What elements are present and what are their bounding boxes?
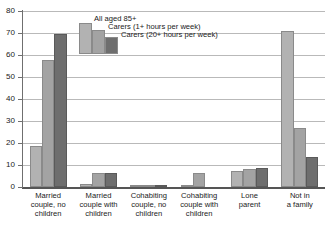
legend-label: Carers (20+ hours per week): [121, 30, 218, 39]
bar: [306, 157, 318, 187]
bar: [155, 185, 167, 187]
bar-group: [30, 11, 67, 187]
y-axis-tick-label: 20: [0, 139, 15, 147]
y-axis-tick-label: 40: [0, 95, 15, 103]
x-axis-category-label: Not in a family: [271, 191, 329, 209]
bar: [256, 168, 268, 187]
bar: [42, 60, 54, 187]
y-axis-tick-label: 60: [0, 51, 15, 59]
x-axis-line: [22, 187, 325, 189]
bar: [193, 173, 205, 187]
bar: [281, 31, 293, 187]
bar: [143, 185, 155, 187]
bar: [181, 185, 193, 187]
y-axis-tick-label: 50: [0, 73, 15, 81]
bar: [130, 185, 142, 187]
legend-swatch: [105, 37, 118, 54]
bar-group: [281, 11, 318, 187]
y-axis-tick-label: 70: [0, 29, 15, 37]
y-axis-tick: [18, 187, 23, 188]
chart-legend: All aged 85+Carers (1+ hours per week)Ca…: [79, 14, 239, 64]
y-axis-tick-label: 80: [0, 7, 15, 15]
bar: [92, 173, 104, 187]
bar: [105, 173, 117, 187]
legend-swatch: [79, 23, 92, 54]
bar: [231, 171, 243, 187]
bar: [80, 184, 92, 187]
y-axis-tick-label: 10: [0, 161, 15, 169]
bar: [54, 34, 66, 187]
bar: [294, 128, 306, 187]
legend-swatch: [92, 30, 105, 54]
y-axis-tick-label: 30: [0, 117, 15, 125]
bar: [30, 146, 42, 187]
bar: [243, 169, 255, 187]
y-axis-tick-label: 0: [0, 183, 15, 191]
bar-chart: 01020304050607080 Married couple, no chi…: [0, 0, 333, 225]
